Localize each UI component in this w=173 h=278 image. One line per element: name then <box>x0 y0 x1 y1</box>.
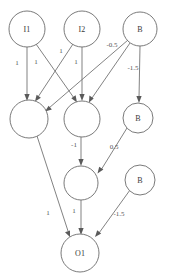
node-label-bias-middle: B <box>135 114 141 123</box>
edge-weight-i1-h1: 1 <box>15 59 19 67</box>
edge-h3-to-o1: 1 <box>72 200 83 235</box>
arrowhead-i2-h2 <box>79 94 84 101</box>
edge-weight-b1-b2: -1.5 <box>127 64 139 72</box>
node-bias-top[interactable]: B <box>123 12 157 46</box>
edge-weight-b3-o1: -1.5 <box>113 210 125 218</box>
edge-i1-to-h1: 1 <box>15 47 29 101</box>
edge-line-b1-h2 <box>92 43 130 98</box>
node-label-i2: I2 <box>78 25 85 34</box>
node-label-i1: I1 <box>23 25 30 34</box>
arrowhead-h1-o1 <box>65 231 70 237</box>
edge-b3-to-o1: -1.5 <box>95 190 130 237</box>
edge-weight-b2-h3: 0.5 <box>110 143 119 151</box>
edge-group: 1 1 1 1 <box>15 40 141 237</box>
node-bias-middle[interactable]: B <box>123 103 153 133</box>
node-circle-hidden-lower[interactable] <box>64 166 98 200</box>
node-hidden-center[interactable] <box>64 101 100 137</box>
edge-weight-b1-h1: -0.5 <box>106 41 118 49</box>
node-circle-hidden-left[interactable] <box>10 100 48 138</box>
arrowhead-b1-b2 <box>136 96 141 103</box>
edge-line-h1-o1 <box>37 136 68 231</box>
node-group: I1 I2 B B <box>9 11 157 272</box>
edge-b1-to-h2 <box>89 43 130 103</box>
arrowhead-i2-h1 <box>35 95 41 102</box>
edge-i2-to-h1: 1 <box>35 44 73 102</box>
node-o1[interactable]: O1 <box>61 234 99 272</box>
edge-weight-i1-h2: 1 <box>34 58 38 66</box>
edge-line-b1-b2 <box>139 46 140 98</box>
node-bias-lower[interactable]: B <box>125 165 155 195</box>
edge-h2-to-h3: -1 <box>71 137 84 166</box>
arrowhead-i1-h2 <box>71 95 77 102</box>
edge-weight-h1-o1: 1 <box>46 209 50 217</box>
network-graph-canvas: 1 1 1 1 <box>0 0 173 278</box>
edge-b2-to-h3: 0.5 <box>98 128 128 174</box>
arrowhead-h2-h3 <box>78 159 83 166</box>
node-i1[interactable]: I1 <box>9 11 45 47</box>
edge-b1-to-b2: -1.5 <box>127 46 141 103</box>
node-circle-hidden-center[interactable] <box>64 101 100 137</box>
node-label-bias-lower: B <box>137 176 143 185</box>
node-i2[interactable]: I2 <box>64 11 100 47</box>
node-label-o1: O1 <box>75 249 85 258</box>
edge-b1-to-h1: -0.5 <box>45 40 128 112</box>
edge-weight-h2-h3: -1 <box>71 141 77 149</box>
node-label-bias-top: B <box>137 25 143 34</box>
edge-weight-i2-h2: 1 <box>74 58 78 66</box>
edge-weight-i2-h1: 1 <box>59 47 63 55</box>
node-hidden-lower[interactable] <box>64 166 98 200</box>
neural-network-diagram: 1 1 1 1 <box>0 0 173 278</box>
edge-weight-h3-o1: 1 <box>72 207 76 215</box>
node-hidden-left[interactable] <box>10 100 48 138</box>
edge-i2-to-h2: 1 <box>74 47 84 101</box>
